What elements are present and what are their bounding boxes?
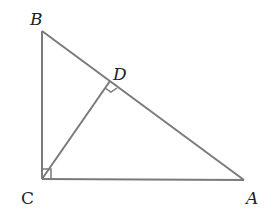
segment-ab (42, 31, 244, 180)
segment-cd (42, 81, 110, 179)
label-b: B (29, 9, 43, 29)
triangle-diagram: B D C A (0, 0, 276, 221)
label-c: C (21, 188, 34, 208)
label-d: D (112, 64, 127, 84)
segment-ca (42, 179, 244, 180)
label-a: A (244, 188, 258, 208)
right-angle-mark-d (105, 88, 117, 92)
